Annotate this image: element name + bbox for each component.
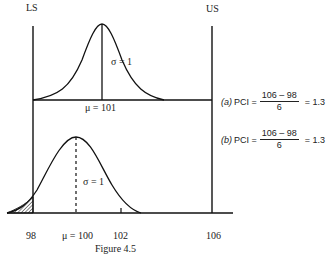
panel-b-normal-curve [7, 137, 141, 213]
figure-caption: Figure 4.5 [95, 243, 136, 254]
upper-spec-label: US [206, 3, 219, 14]
formula-a-name: PCI = [234, 97, 257, 107]
tick-label-mean: μ = 100 [62, 230, 93, 241]
formula-b: (b) PCI = 106 – 98 6 = 1.3 [221, 128, 325, 151]
formula-a-result: = 1.3 [305, 97, 325, 107]
formula-b-tag: (b) [221, 135, 232, 145]
formula-b-result: = 1.3 [305, 135, 325, 145]
tick-label-106: 106 [206, 230, 221, 241]
formula-a-tag: (a) [221, 97, 232, 107]
panel-a-normal-curve [33, 24, 164, 100]
formula-b-name: PCI = [234, 135, 257, 145]
formula-a: (a) PCI = 106 – 98 6 = 1.3 [221, 90, 325, 113]
formula-b-denominator: 6 [277, 140, 282, 151]
tick-label-98: 98 [26, 230, 36, 241]
tick-label-102: 102 [113, 230, 128, 241]
formula-b-numerator: 106 – 98 [260, 128, 299, 140]
panel-a-mean-label: μ = 101 [85, 102, 116, 113]
formula-a-denominator: 6 [277, 102, 282, 113]
panel-a-sigma-label: σ = 1 [111, 56, 132, 67]
lower-spec-label: LS [26, 2, 38, 13]
panel-b-sigma-label: σ = 1 [83, 176, 104, 187]
out-of-spec-tail [7, 197, 33, 213]
formula-a-numerator: 106 – 98 [260, 90, 299, 102]
formula-a-fraction: 106 – 98 6 [260, 90, 299, 113]
formula-b-fraction: 106 – 98 6 [260, 128, 299, 151]
